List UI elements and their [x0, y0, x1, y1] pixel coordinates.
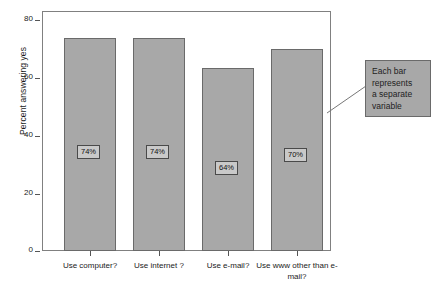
y-tick-label-80: 80 [24, 14, 33, 23]
bar-value-use-computer: 74% [77, 145, 100, 159]
x-tick-use-computer [90, 251, 91, 256]
y-tick-mark-60 [35, 78, 40, 79]
y-tick-80: 80 [0, 20, 40, 21]
y-tick-40: 40 [0, 136, 40, 137]
y-tick-label-0: 0 [29, 245, 33, 254]
y-tick-mark-40 [35, 136, 40, 137]
y-axis-title: Percent answering yes [18, 16, 28, 166]
x-tick-use-email [228, 251, 229, 256]
y-tick-label-40: 40 [24, 130, 33, 139]
x-tick-use-internet [159, 251, 160, 256]
y-tick-label-60: 60 [24, 72, 33, 81]
bar-chart: Percent answering yes 80 60 40 20 0 74% … [0, 0, 439, 298]
x-tick-use-www [297, 251, 298, 256]
bar-use-email[interactable] [202, 68, 254, 251]
y-tick-0: 0 [0, 251, 40, 252]
bar-value-use-email: 64% [215, 161, 238, 175]
bar-value-use-internet: 74% [146, 145, 169, 159]
annotation-callout: Each bar represents a separate variable [365, 60, 431, 117]
y-tick-20: 20 [0, 194, 40, 195]
annotation-line-3: a separate [372, 89, 424, 101]
annotation-line-1: Each bar [372, 66, 424, 78]
bar-value-use-www: 70% [284, 148, 307, 162]
x-label-use-www: Use www other than e-mail? [255, 261, 339, 282]
annotation-line-4: variable [372, 101, 424, 113]
annotation-line-2: represents [372, 78, 424, 90]
y-tick-mark-20 [35, 194, 40, 195]
y-tick-60: 60 [0, 78, 40, 79]
y-tick-label-20: 20 [24, 188, 33, 197]
y-tick-mark-80 [35, 20, 40, 21]
y-tick-mark-0 [35, 251, 40, 252]
